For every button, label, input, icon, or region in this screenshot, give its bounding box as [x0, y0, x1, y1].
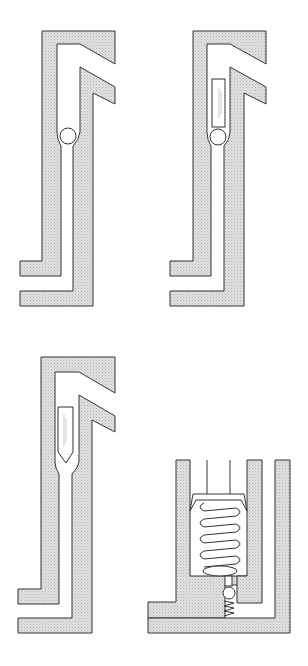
cylinder-retainer: [212, 79, 225, 127]
outer-left-wall: [170, 31, 266, 276]
needle-plug: [58, 407, 73, 463]
piston-cap: [190, 494, 247, 511]
figure-d-spring-piston: [148, 460, 290, 633]
small-stem: [225, 576, 232, 586]
ball-icon: [223, 587, 235, 599]
figure-b-ball-retainer: [170, 31, 266, 306]
spring-icon: [200, 503, 240, 567]
spring-base: [203, 566, 237, 576]
outer-left-wall: [18, 357, 115, 604]
outer-left-wall: [20, 31, 115, 276]
check-valve-diagram: [0, 0, 308, 666]
figure-c-needle-plug: [18, 357, 115, 633]
ball-icon: [210, 129, 226, 145]
figure-a-ball-check: [20, 31, 115, 306]
ball-icon: [60, 128, 76, 144]
right-inner-wall: [237, 460, 262, 603]
